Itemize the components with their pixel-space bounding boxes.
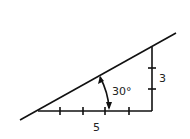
angle-label: 30° bbox=[112, 85, 132, 98]
triangle-diagram: 30° 3 5 bbox=[0, 0, 190, 139]
angle-arrowheads bbox=[98, 76, 112, 110]
vertical-length-label: 3 bbox=[159, 72, 166, 85]
horizontal-length-label: 5 bbox=[93, 121, 100, 134]
